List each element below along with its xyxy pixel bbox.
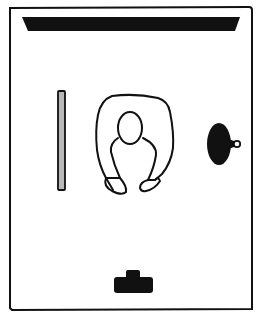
bottom-object <box>114 270 153 293</box>
person-figure <box>96 95 173 194</box>
right-hand <box>140 178 160 191</box>
side-panel <box>58 91 65 190</box>
diagram-canvas <box>0 0 257 312</box>
lamp-knob <box>234 141 240 147</box>
top-bar <box>22 17 240 31</box>
lamp <box>207 123 240 165</box>
head <box>118 112 142 144</box>
